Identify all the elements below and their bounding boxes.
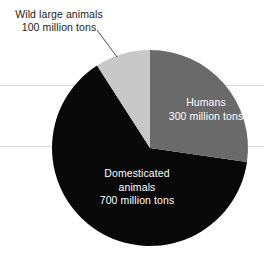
wild-label-name: Wild large animals xyxy=(7,8,111,21)
domesticated-label-name-line1: Domesticated xyxy=(78,167,196,181)
domesticated-label-value: 700 million tons xyxy=(78,194,196,208)
wild-label-value: 100 million tons xyxy=(7,21,111,34)
humans-label-value: 300 million tons xyxy=(160,110,252,124)
domesticated-label-name-line2: animals xyxy=(78,181,196,195)
pie-chart-figure: Wild large animals 100 million tons Huma… xyxy=(0,0,264,266)
slice-label-domesticated-animals: Domesticated animals 700 million tons xyxy=(78,167,196,208)
pie-chart-graphic xyxy=(0,0,264,266)
slice-label-wild-large-animals: Wild large animals 100 million tons xyxy=(7,8,111,34)
slice-label-humans: Humans 300 million tons xyxy=(160,96,252,123)
humans-label-name: Humans xyxy=(160,96,252,110)
callout-leader-line xyxy=(97,30,117,57)
